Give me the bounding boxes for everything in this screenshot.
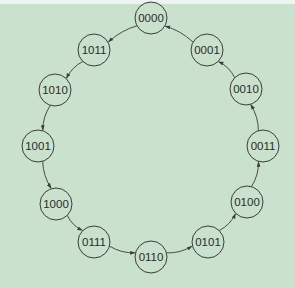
transition-arrow — [108, 26, 137, 42]
state-node: 0111 — [78, 226, 110, 258]
node-label: 1001 — [25, 140, 51, 152]
node-label: 1000 — [43, 198, 69, 210]
state-node: 0011 — [247, 130, 279, 162]
node-label: 1011 — [82, 44, 107, 56]
transition-arrow — [219, 62, 235, 78]
node-label: 0010 — [233, 83, 259, 95]
node-label: 0011 — [251, 140, 276, 152]
node-label: 0111 — [82, 236, 106, 248]
transition-arrow — [67, 62, 83, 79]
transition-arrow — [43, 161, 51, 188]
node-label: 0101 — [195, 236, 221, 248]
node-label: 1010 — [42, 84, 68, 96]
state-node: 1001 — [22, 130, 54, 162]
transition-arrow — [219, 214, 235, 231]
edges-layer — [43, 26, 259, 253]
transition-arrow — [110, 246, 136, 253]
node-label: 0001 — [194, 44, 220, 56]
transition-arrow — [251, 162, 258, 187]
node-label: 0000 — [138, 12, 164, 24]
transition-arrow — [43, 105, 51, 130]
state-node: 1000 — [40, 188, 72, 220]
state-node: 1011 — [78, 34, 110, 66]
state-node: 0100 — [231, 186, 263, 218]
transition-arrow — [167, 246, 193, 253]
node-label: 0110 — [139, 251, 164, 263]
state-cycle-diagram: 0000 0001 0010 0011 0100 0101 0110 0111 … — [0, 0, 295, 288]
node-label: 0100 — [234, 196, 260, 208]
state-node: 0101 — [192, 226, 224, 258]
transition-arrow — [165, 26, 193, 42]
state-node: 0010 — [230, 73, 262, 105]
nodes-layer: 0000 0001 0010 0011 0100 0101 0110 0111 … — [22, 2, 279, 273]
transition-arrow — [67, 215, 82, 230]
transition-arrow — [251, 105, 259, 131]
state-node: 0001 — [191, 34, 223, 66]
state-node: 0110 — [135, 241, 167, 273]
state-node: 1010 — [39, 74, 71, 106]
state-node: 0000 — [135, 2, 167, 34]
